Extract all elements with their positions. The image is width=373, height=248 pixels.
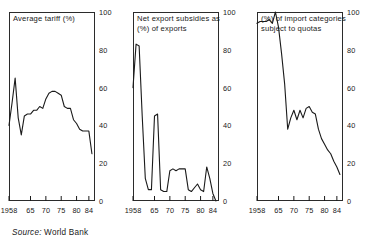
y-tick-label: 40 <box>223 121 232 130</box>
series-line <box>257 12 343 201</box>
y-tick-label: 20 <box>223 159 232 168</box>
x-tick-label: 84 <box>85 206 93 215</box>
x-tick-label: 65 <box>26 206 34 215</box>
y-tick-label: 100 <box>99 8 112 17</box>
x-tick-label: 1958 <box>125 206 142 215</box>
x-tick-label: 80 <box>320 206 328 215</box>
x-tick-label: 80 <box>196 206 204 215</box>
x-tick-label: 75 <box>57 206 65 215</box>
x-axis-labels: 19586570758084 <box>124 206 248 218</box>
x-tick-label: 70 <box>166 206 174 215</box>
y-tick-label: 40 <box>347 121 356 130</box>
y-tick-label: 20 <box>99 159 108 168</box>
x-tick-label: 84 <box>209 206 217 215</box>
chart-panel-net-export-subsidies: Net export subsidies as (%) of exports 0… <box>124 0 248 220</box>
y-tick-label: 80 <box>347 45 356 54</box>
x-tick-label: 1958 <box>249 206 266 215</box>
y-tick-label: 100 <box>347 8 360 17</box>
x-tick-label: 65 <box>150 206 158 215</box>
y-tick-label: 80 <box>99 45 108 54</box>
chart-figure: Average tariff (%) 020406080100 19586570… <box>0 0 373 248</box>
panel-row: Average tariff (%) 020406080100 19586570… <box>0 0 373 220</box>
y-tick-label: 100 <box>223 8 236 17</box>
x-tick-label: 84 <box>333 206 341 215</box>
x-tick-label: 75 <box>181 206 189 215</box>
source-value: World Bank <box>44 228 88 237</box>
y-tick-label: 60 <box>347 83 356 92</box>
y-axis-labels: 020406080100 <box>220 12 246 201</box>
chart-panel-import-quotas: (%) of import categories subject to quot… <box>248 0 372 220</box>
y-tick-label: 60 <box>99 83 108 92</box>
x-tick-label: 1958 <box>1 206 18 215</box>
y-axis-labels: 020406080100 <box>96 12 122 201</box>
x-axis-labels: 19586570758084 <box>248 206 372 218</box>
chart-panel-average-tariff: Average tariff (%) 020406080100 19586570… <box>0 0 124 220</box>
y-tick-label: 60 <box>223 83 232 92</box>
x-tick-label: 75 <box>305 206 313 215</box>
x-tick-label: 70 <box>290 206 298 215</box>
source-label: Source: <box>12 228 42 237</box>
y-axis-labels: 020406080100 <box>344 12 370 201</box>
series-line <box>9 12 95 201</box>
x-tick-label: 70 <box>42 206 50 215</box>
x-tick-label: 65 <box>274 206 282 215</box>
x-tick-label: 80 <box>72 206 80 215</box>
y-tick-label: 20 <box>347 159 356 168</box>
series-line <box>133 12 219 201</box>
x-axis-labels: 19586570758084 <box>0 206 124 218</box>
y-tick-label: 80 <box>223 45 232 54</box>
source-note: Source: World Bank <box>12 228 88 237</box>
y-tick-label: 40 <box>99 121 108 130</box>
